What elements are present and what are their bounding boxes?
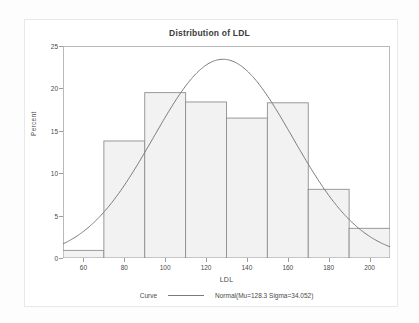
- y-tick-label: 0: [54, 255, 58, 262]
- x-tick-mark: [247, 258, 248, 262]
- legend-line-marker: [168, 295, 204, 296]
- legend-entry-label: Normal(Mu=128.3 Sigma=34.052): [215, 292, 313, 299]
- y-tick-label: 15: [51, 127, 58, 134]
- x-tick-mark: [370, 258, 371, 262]
- normal-curve-path: [63, 59, 390, 247]
- x-tick-mark: [83, 258, 84, 262]
- x-tick-label: 60: [80, 264, 87, 271]
- plot-area: 0510152025 6080100120140160180200: [63, 46, 390, 258]
- y-tick-mark: [59, 216, 63, 217]
- x-tick-mark: [206, 258, 207, 262]
- x-tick-label: 160: [282, 264, 293, 271]
- y-tick-label: 10: [51, 170, 58, 177]
- chart-canvas: Distribution of LDL Percent 0510152025 6…: [0, 0, 419, 323]
- x-tick-mark: [165, 258, 166, 262]
- x-tick-mark: [329, 258, 330, 262]
- normal-curve: [63, 46, 390, 258]
- x-tick-mark: [288, 258, 289, 262]
- x-tick-label: 120: [201, 264, 212, 271]
- y-tick-mark: [59, 258, 63, 259]
- chart-title: Distribution of LDL: [0, 28, 419, 38]
- x-tick-label: 140: [242, 264, 253, 271]
- x-tick-label: 80: [121, 264, 128, 271]
- y-axis-label: Percent: [30, 111, 37, 136]
- x-tick-mark: [124, 258, 125, 262]
- x-tick-label: 200: [364, 264, 375, 271]
- y-tick-label: 20: [51, 85, 58, 92]
- y-tick-mark: [59, 173, 63, 174]
- y-tick-mark: [59, 46, 63, 47]
- x-tick-label: 100: [160, 264, 171, 271]
- x-axis-label: LDL: [63, 276, 390, 283]
- y-tick-mark: [59, 131, 63, 132]
- y-tick-label: 5: [54, 212, 58, 219]
- legend-title: Curve: [140, 292, 157, 299]
- y-tick-label: 25: [51, 43, 58, 50]
- chart-legend: Curve Normal(Mu=128.3 Sigma=34.052): [63, 292, 390, 299]
- x-tick-label: 180: [323, 264, 334, 271]
- y-tick-mark: [59, 88, 63, 89]
